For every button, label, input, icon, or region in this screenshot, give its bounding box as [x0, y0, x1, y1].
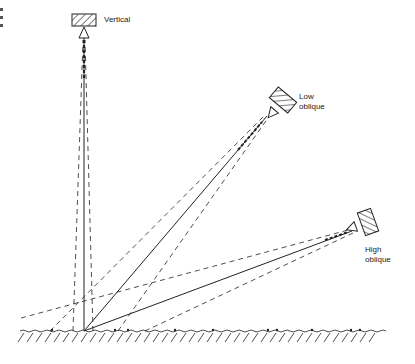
vertical-label: Vertical [104, 15, 130, 25]
high-oblique-label-line1: High [365, 245, 391, 255]
ground-hatching [18, 333, 375, 342]
diagram-canvas: Vertical Low oblique High oblique [0, 0, 415, 364]
high-oblique-label: High oblique [365, 245, 391, 265]
low-oblique-label: Low oblique [299, 92, 325, 112]
high-oblique-label-line2: oblique [365, 255, 391, 265]
low-oblique-rays [50, 115, 268, 331]
vertical-rays [73, 38, 93, 331]
low-oblique-label-line2: oblique [299, 102, 325, 112]
diagram-svg [0, 0, 415, 364]
vertical-camera-icon [72, 14, 96, 38]
high-oblique-camera-icon [342, 208, 378, 241]
high-oblique-rays [21, 229, 353, 331]
low-oblique-camera-icon [259, 87, 297, 125]
low-oblique-label-line1: Low [299, 92, 325, 102]
